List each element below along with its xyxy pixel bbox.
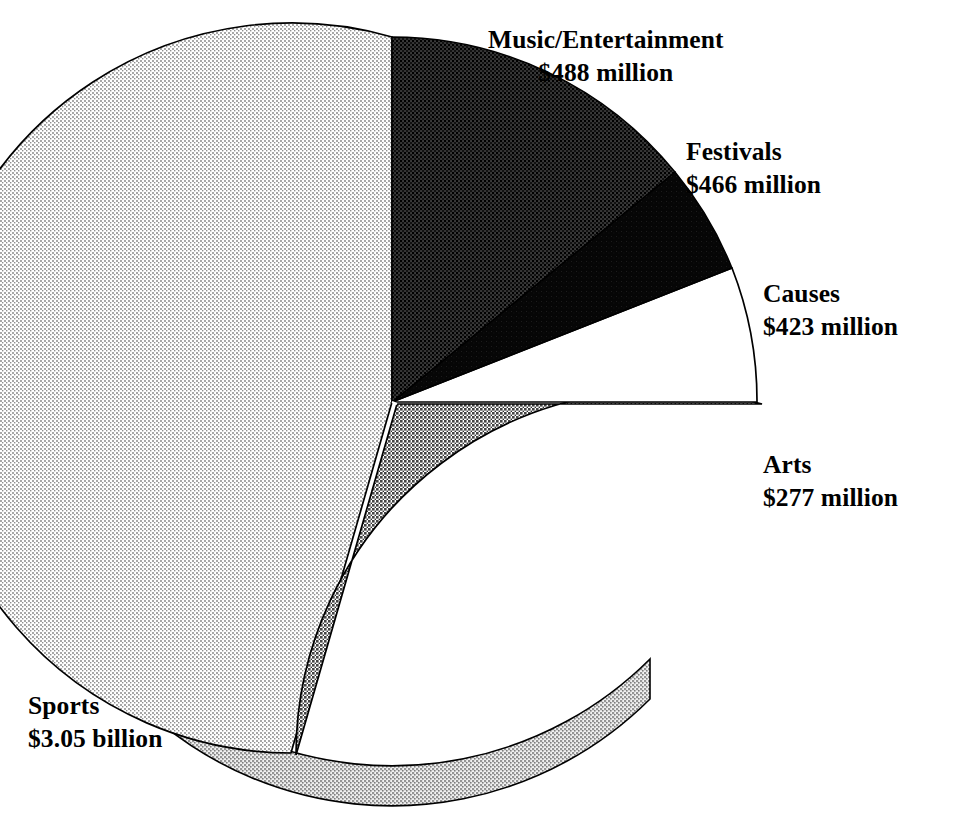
slice-label-sports: Sports $3.05 billion (28, 690, 163, 755)
slice-label-causes-value: $423 million (763, 311, 898, 344)
slice-label-music-entertainment: Music/Entertainment $488 million (488, 24, 724, 89)
slice-label-arts: Arts $277 million (763, 449, 898, 514)
slice-label-festivals: Festivals $466 million (686, 136, 821, 201)
slice-label-festivals-name: Festivals (686, 136, 821, 169)
slice-label-sports-value: $3.05 billion (28, 723, 163, 756)
slice-label-arts-name: Arts (763, 449, 898, 482)
slice-label-arts-value: $277 million (763, 482, 898, 515)
pie-chart: Music/Entertainment $488 million Festiva… (0, 0, 968, 834)
slice-label-music-entertainment-value: $488 million (488, 57, 724, 90)
slice-label-causes-name: Causes (763, 278, 898, 311)
slice-label-music-entertainment-name: Music/Entertainment (488, 24, 724, 57)
slice-label-festivals-value: $466 million (686, 169, 821, 202)
slice-label-sports-name: Sports (28, 690, 163, 723)
slice-sports (0, 23, 392, 753)
slice-label-causes: Causes $423 million (763, 278, 898, 343)
